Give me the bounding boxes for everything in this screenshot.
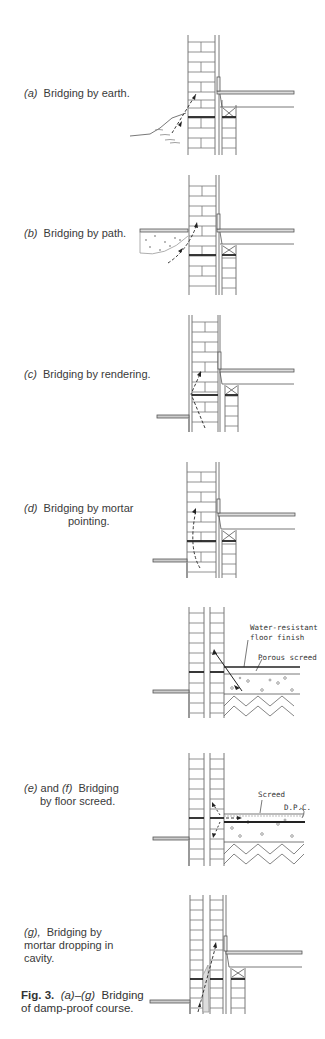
figure-number: Fig. 3.	[21, 989, 54, 1001]
figure-title-1: Bridging	[102, 989, 144, 1001]
figure-caption: Fig. 3. (a)–(g) Bridging of damp-proof c…	[21, 989, 144, 1015]
figure-range-end: (g)	[81, 989, 95, 1001]
panel-g: (g), Bridging by mortar dropping in cavi…	[0, 0, 325, 1039]
diagram-bridging-by-mortar-dropping	[0, 0, 325, 1039]
figure-range-start: (a)	[61, 989, 75, 1001]
figure-title-2: of damp-proof course.	[21, 1002, 134, 1014]
